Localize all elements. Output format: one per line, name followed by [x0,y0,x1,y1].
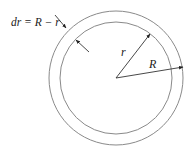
inner-thickness-arrow [76,40,89,52]
annulus-diagram: dr = R − r r R [0,0,195,149]
outer-radius-label: R [149,58,156,70]
thickness-label: dr = R − r [11,17,60,29]
inner-radius-label: r [121,46,126,58]
